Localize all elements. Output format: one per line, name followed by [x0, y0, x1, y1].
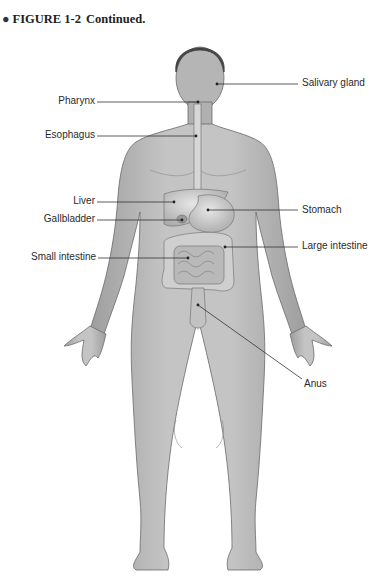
- label-pharynx: Pharynx: [0, 95, 95, 107]
- label-large-intestine: Large intestine: [302, 240, 368, 252]
- label-liver: Liver: [0, 195, 95, 207]
- right-hand: [290, 326, 332, 366]
- label-stomach: Stomach: [302, 204, 341, 216]
- rectum-organ: [190, 288, 206, 328]
- esophagus-organ: [194, 104, 201, 192]
- label-salivary-gland: Salivary gland: [302, 77, 365, 89]
- label-esophagus: Esophagus: [0, 129, 95, 141]
- label-anus: Anus: [304, 378, 327, 390]
- left-hand: [64, 326, 106, 366]
- label-gallbladder: Gallbladder: [0, 213, 95, 225]
- label-small-intestine: Small intestine: [0, 251, 96, 263]
